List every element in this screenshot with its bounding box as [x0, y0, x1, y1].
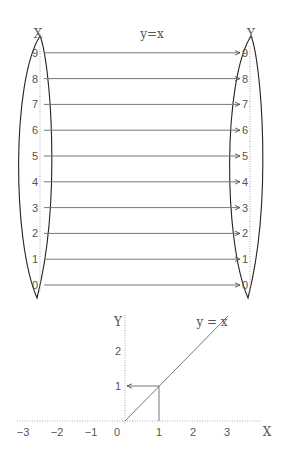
domain-value: 9	[32, 47, 38, 59]
codomain-value: 9	[242, 47, 248, 59]
codomain-value: 8	[242, 73, 248, 85]
codomain-value: 1	[242, 253, 248, 265]
x-tick-label: −3	[17, 426, 30, 438]
y-tick-label: 1	[115, 380, 121, 392]
x-tick-label: −2	[51, 426, 64, 438]
codomain-values: 9876543210	[242, 47, 248, 291]
mapping-title: y=x	[139, 27, 164, 41]
codomain-value: 3	[242, 202, 248, 214]
x-tick-label: 2	[190, 426, 196, 438]
function-graph: y = x Y X −3−2−10123 12	[17, 315, 272, 439]
mapping-arrows	[44, 53, 240, 285]
domain-label: X	[34, 27, 43, 41]
domain-value: 8	[32, 73, 38, 85]
domain-value: 1	[32, 253, 38, 265]
y-tick-labels: 12	[115, 345, 121, 392]
domain-values: 9876543210	[32, 47, 38, 291]
x-tick-label: −1	[85, 426, 98, 438]
domain-value: 6	[32, 124, 38, 136]
x-tick-label: 1	[156, 426, 162, 438]
domain-value: 4	[32, 176, 38, 188]
codomain-value: 0	[242, 279, 248, 291]
codomain-value: 4	[242, 176, 248, 188]
domain-value: 0	[32, 279, 38, 291]
domain-value: 5	[32, 150, 38, 162]
codomain-value: 7	[242, 98, 248, 110]
function-label: y = x	[195, 315, 227, 329]
x-axis-label: X	[263, 425, 272, 439]
domain-value: 3	[32, 202, 38, 214]
y-axis-label: Y	[113, 315, 123, 329]
codomain-value: 5	[242, 150, 248, 162]
x-tick-label: 3	[224, 426, 230, 438]
diagram-canvas: y=x X 9876543210 Y 9876543210 y = x Y X …	[0, 0, 283, 458]
domain-value: 7	[32, 98, 38, 110]
codomain-label: Y	[246, 27, 256, 41]
function-line	[125, 316, 228, 421]
codomain-value: 6	[242, 124, 248, 136]
x-tick-labels: −3−2−10123	[17, 426, 230, 438]
codomain-set: Y 9876543210	[230, 27, 263, 298]
y-tick-label: 2	[115, 345, 121, 357]
domain-set: X 9876543210	[19, 27, 52, 298]
codomain-value: 2	[242, 227, 248, 239]
domain-value: 2	[32, 227, 38, 239]
x-tick-label: 0	[114, 426, 120, 438]
